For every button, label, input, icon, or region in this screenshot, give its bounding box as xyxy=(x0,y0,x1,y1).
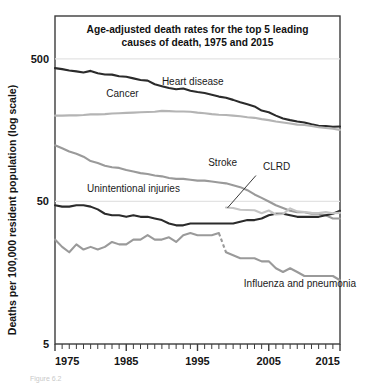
y-tick-label-5: 5 xyxy=(43,338,49,350)
chart-title-line-1: Age-adjusted death rates for the top 5 l… xyxy=(87,24,309,35)
x-tick-label-2015: 2015 xyxy=(316,355,340,367)
death-rates-line-chart: Deaths per 100,000 resident population (… xyxy=(0,0,371,386)
chart-title-line-2: causes of death, 1975 and 2015 xyxy=(122,37,274,48)
figure-caption: Figure 6.2 xyxy=(30,375,62,383)
annotation-stroke: Stroke xyxy=(208,157,237,168)
x-tick-label-1975: 1975 xyxy=(55,355,79,367)
annotation-cancer: Cancer xyxy=(106,88,139,99)
y-tick-label-50: 50 xyxy=(37,195,49,207)
x-tick-label-1995: 1995 xyxy=(185,355,209,367)
x-tick-label-1985: 1985 xyxy=(114,355,138,367)
x-tick-label-2005: 2005 xyxy=(257,355,281,367)
annotation-heart-disease: Heart disease xyxy=(162,76,224,87)
y-axis-title: Deaths per 100,000 resident population (… xyxy=(6,85,18,335)
annotation-influenza-and-pneumonia: Influenza and pneumonia xyxy=(244,278,357,289)
annotation-unintentional-injuries: Unintentional injuries xyxy=(87,183,180,194)
figure-container: Deaths per 100,000 resident population (… xyxy=(0,0,371,386)
y-tick-label-500: 500 xyxy=(31,53,49,65)
annotation-clrd: CLRD xyxy=(263,161,290,172)
